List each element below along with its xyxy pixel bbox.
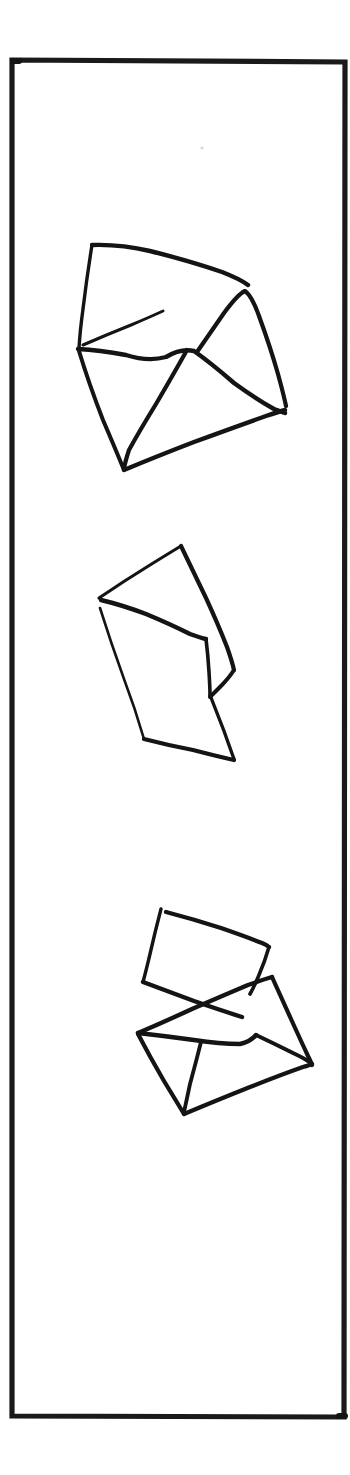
- paper-speck: [200, 146, 203, 149]
- sketch-canvas: [0, 0, 350, 1475]
- drawing-sheet: Envelope pictogram sheet: [0, 0, 350, 1475]
- sheet-background: [0, 0, 350, 1475]
